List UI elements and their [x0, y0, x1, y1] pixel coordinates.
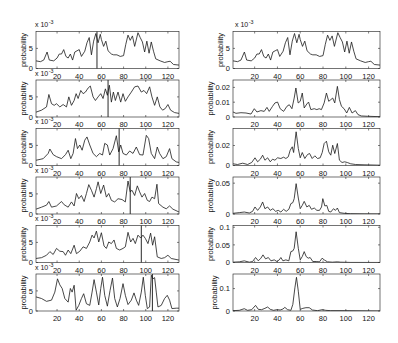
- x-tick-label: 100: [139, 72, 152, 81]
- exponent-base: x 10: [35, 167, 48, 174]
- x-tick-label: 20: [250, 120, 258, 129]
- y-tick-label: 0: [29, 307, 33, 316]
- x-tick-label: 100: [340, 314, 353, 323]
- y-tick-label: 5: [29, 287, 33, 296]
- exponent-base: x 10: [35, 70, 48, 77]
- x-tick-label: 80: [319, 120, 327, 129]
- x-tick-label: 100: [340, 266, 353, 275]
- y-tick-label: 0: [29, 161, 33, 170]
- x-tick-label: 60: [97, 314, 105, 323]
- x-tick-label: 60: [296, 266, 304, 275]
- y-tick-label: 0: [226, 258, 230, 267]
- y-axis-label: probability: [206, 178, 215, 212]
- y-tick-label: 0: [29, 258, 33, 267]
- y-tick-label: 0.01: [215, 98, 230, 107]
- x-tick-label: 40: [75, 72, 83, 81]
- x-tick-label: 20: [53, 72, 61, 81]
- y-tick-label: 0: [226, 307, 230, 316]
- x-tick-label: 60: [296, 169, 304, 178]
- y-tick-label: 5: [29, 93, 33, 102]
- y-tick-label: 0: [226, 161, 230, 170]
- x-tick-label: 120: [162, 217, 175, 226]
- y-tick-label: 0.05: [215, 241, 230, 250]
- y-tick-label: 5: [226, 44, 230, 53]
- x-tick-label: 120: [362, 314, 375, 323]
- x-tick-label: 80: [319, 169, 327, 178]
- y-axis-label: probability: [210, 275, 219, 309]
- y-tick-label: 0: [29, 64, 33, 73]
- x-tick-label: 20: [53, 169, 61, 178]
- x-tick-label: 60: [97, 72, 105, 81]
- figure: 2040608010012005probabilityx 10-32040608…: [0, 0, 398, 343]
- exponent-power: -3: [49, 116, 54, 122]
- x-tick-label: 60: [296, 120, 304, 129]
- x-tick-label: 100: [340, 169, 353, 178]
- x-tick-label: 60: [97, 169, 105, 178]
- x-tick-label: 100: [139, 217, 152, 226]
- y-tick-label: 0: [226, 210, 230, 219]
- x-tick-label: 40: [75, 169, 83, 178]
- x-tick-label: 20: [250, 314, 258, 323]
- y-axis-label: probability: [19, 178, 28, 212]
- x-tick-label: 120: [362, 169, 375, 178]
- y-axis-label: probability: [19, 33, 28, 67]
- x-tick-label: 120: [362, 72, 375, 81]
- plot-area: [233, 177, 380, 214]
- x-tick-label: 60: [97, 217, 105, 226]
- x-tick-label: 100: [340, 120, 353, 129]
- x-tick-label: 80: [319, 72, 327, 81]
- x-tick-label: 80: [119, 266, 127, 275]
- x-tick-label: 40: [75, 217, 83, 226]
- x-tick-label: 20: [53, 314, 61, 323]
- exponent-base: x 10: [235, 21, 248, 28]
- x-tick-label: 40: [273, 266, 281, 275]
- y-axis-label: probability: [216, 33, 225, 67]
- x-tick-label: 20: [53, 217, 61, 226]
- exponent-base: x 10: [35, 21, 48, 28]
- x-tick-label: 100: [139, 266, 152, 275]
- exponent-base: x 10: [35, 118, 48, 125]
- plot-area: [233, 80, 380, 117]
- y-tick-label: 0.05: [215, 179, 230, 188]
- y-tick-label: 5: [29, 190, 33, 199]
- x-tick-label: 120: [362, 120, 375, 129]
- y-tick-label: 5: [29, 238, 33, 247]
- x-tick-label: 100: [340, 217, 353, 226]
- x-tick-label: 60: [296, 314, 304, 323]
- x-tick-label: 100: [139, 314, 152, 323]
- x-tick-label: 80: [319, 314, 327, 323]
- x-tick-label: 100: [139, 120, 152, 129]
- x-tick-label: 80: [119, 217, 127, 226]
- y-axis-label: probability: [206, 81, 215, 115]
- y-axis-label: probability: [206, 130, 215, 164]
- x-tick-label: 60: [296, 72, 304, 81]
- x-tick-label: 40: [75, 314, 83, 323]
- x-tick-label: 120: [162, 266, 175, 275]
- x-tick-label: 80: [119, 72, 127, 81]
- exponent-power: -3: [49, 262, 54, 268]
- y-tick-label: 5: [29, 44, 33, 53]
- y-tick-label: 0.02: [215, 83, 230, 92]
- y-tick-label: 5: [29, 141, 33, 150]
- y-tick-label: 0: [226, 113, 230, 122]
- y-tick-label: 0: [29, 113, 33, 122]
- x-tick-label: 40: [273, 314, 281, 323]
- x-tick-label: 80: [319, 217, 327, 226]
- x-tick-label: 120: [362, 217, 375, 226]
- x-tick-label: 120: [362, 266, 375, 275]
- x-tick-label: 40: [273, 169, 281, 178]
- y-tick-label: 0.1: [220, 223, 230, 232]
- x-tick-label: 40: [273, 72, 281, 81]
- x-tick-label: 120: [162, 169, 175, 178]
- x-tick-label: 20: [250, 266, 258, 275]
- exponent-power: -3: [49, 213, 54, 219]
- x-tick-label: 60: [97, 266, 105, 275]
- x-tick-label: 120: [162, 120, 175, 129]
- x-tick-label: 120: [162, 314, 175, 323]
- x-tick-label: 80: [119, 314, 127, 323]
- x-tick-label: 40: [75, 266, 83, 275]
- y-axis-label: probability: [19, 227, 28, 261]
- exponent-power: -3: [49, 68, 54, 74]
- x-tick-label: 20: [250, 72, 258, 81]
- plot-area: [233, 129, 380, 166]
